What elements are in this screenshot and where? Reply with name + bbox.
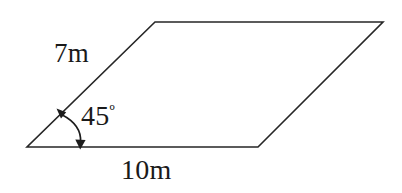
- geometry-figure: 7m 45º 10m: [0, 0, 402, 193]
- angle-arc: [62, 115, 81, 143]
- angle-value: 45: [81, 100, 109, 131]
- side-label-bottom: 10m: [121, 156, 171, 184]
- side-label-left: 7m: [54, 40, 89, 67]
- angle-arc-arrowhead-lower: [75, 140, 85, 150]
- parallelogram-drawing: [0, 0, 402, 193]
- degree-symbol: º: [109, 102, 114, 121]
- angle-label: 45º: [81, 102, 115, 130]
